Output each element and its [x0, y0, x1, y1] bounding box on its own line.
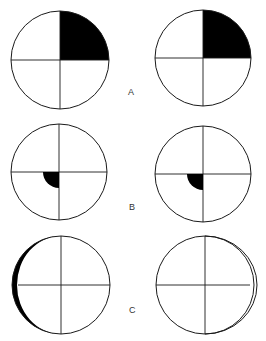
- filled-quadrant: [203, 10, 251, 58]
- row-c-left-circle: [12, 236, 110, 334]
- filled-quadrant: [60, 11, 109, 60]
- row-a-label: A: [128, 87, 134, 97]
- center-quarter-disc: [187, 174, 203, 190]
- row-a-right-circle: [155, 10, 251, 106]
- row-a-left-circle: [11, 11, 109, 109]
- center-quarter-disc: [43, 172, 59, 188]
- row-b-label: B: [129, 202, 135, 212]
- diagram-figure: [0, 0, 266, 341]
- row-c-label: C: [129, 305, 136, 315]
- row-b-left-circle: [11, 124, 107, 220]
- row-c-right-circle: [156, 236, 257, 334]
- row-b-right-circle: [155, 126, 251, 222]
